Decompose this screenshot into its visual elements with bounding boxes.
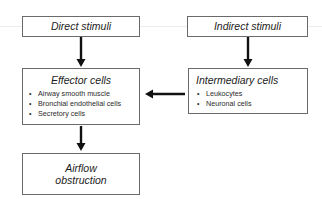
arrow-down-icon (244, 37, 253, 67)
arrow-down-icon (77, 126, 86, 151)
arrows-layer (0, 0, 322, 199)
arrow-left-icon (145, 90, 185, 99)
arrow-down-icon (77, 37, 86, 67)
